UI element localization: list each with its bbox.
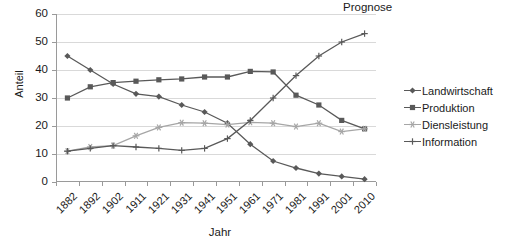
data-point-plus: [110, 142, 116, 148]
data-point-square: [65, 95, 70, 100]
y-tick-label: 10: [18, 147, 48, 159]
x-tick-label: 2010: [347, 190, 377, 220]
x-axis-title: Jahr: [140, 226, 300, 238]
series-information: [64, 30, 368, 154]
data-point-square: [133, 79, 138, 84]
data-point-star: [155, 124, 162, 130]
x-tick-label: 1951: [210, 190, 240, 220]
y-tick-label: 50: [18, 35, 48, 47]
data-point-plus: [409, 138, 415, 144]
x-tick-label: 2001: [324, 190, 354, 220]
series-produktion: [65, 69, 367, 132]
legend-item-label: Landwirtschaft: [422, 85, 493, 97]
legend-item-produktion[interactable]: Produktion: [404, 99, 507, 116]
series-landwirtschaft: [64, 53, 367, 182]
data-point-plus: [156, 145, 162, 151]
data-point-diamond: [179, 102, 185, 108]
x-axis-tick-labels: 1882189219021911192119311941195119611971…: [56, 184, 386, 224]
x-tick-label: 1892: [73, 190, 103, 220]
data-point-diamond: [201, 109, 207, 115]
data-point-plus: [361, 30, 367, 36]
data-point-star: [315, 120, 322, 126]
data-point-square: [156, 77, 161, 82]
data-point-square: [179, 76, 184, 81]
data-point-diamond: [316, 171, 322, 177]
data-point-square: [111, 80, 116, 85]
data-point-plus: [64, 148, 70, 154]
data-point-plus: [201, 145, 207, 151]
data-point-square: [316, 102, 321, 107]
data-point-square: [248, 69, 253, 74]
x-tick-label: 1941: [187, 190, 217, 220]
x-tick-label: 1882: [50, 190, 80, 220]
data-point-plus: [339, 39, 345, 45]
data-point-star: [178, 120, 185, 126]
line-chart: Anteil 0102030405060 1882189219021911192…: [0, 0, 507, 250]
data-point-square: [88, 84, 93, 89]
legend-marker-diamond-icon: [404, 85, 421, 96]
x-tick-label: 1911: [119, 190, 149, 220]
y-tick-label: 30: [18, 91, 48, 103]
x-tick-label: 1971: [256, 190, 286, 220]
data-point-plus: [133, 144, 139, 150]
x-tick-label: 1991: [301, 190, 331, 220]
data-point-square: [202, 74, 207, 79]
legend-marker-square-icon: [404, 102, 421, 113]
prognose-annotation: Prognose: [343, 1, 392, 13]
series-lines: [56, 14, 376, 182]
x-tick-label: 1931: [164, 190, 194, 220]
data-point-diamond: [361, 176, 367, 182]
data-point-square: [339, 118, 344, 123]
data-point-diamond: [133, 91, 139, 97]
data-point-diamond: [339, 173, 345, 179]
data-point-diamond: [87, 67, 93, 73]
y-axis-title: Anteil: [13, 49, 25, 119]
legend-item-information[interactable]: Information: [404, 133, 507, 150]
series-diensleistung: [64, 119, 368, 154]
data-point-plus: [87, 145, 93, 151]
data-point-star: [338, 129, 345, 135]
data-point-star: [270, 120, 277, 126]
y-tick-label: 60: [18, 7, 48, 19]
chart-legend: LandwirtschaftProduktionDiensleistungInf…: [404, 82, 507, 150]
legend-item-landwirtschaft[interactable]: Landwirtschaft: [404, 82, 507, 99]
data-point-square: [225, 74, 230, 79]
legend-item-label: Produktion: [422, 102, 475, 114]
x-tick-label: 1921: [141, 190, 171, 220]
data-point-square: [271, 69, 276, 74]
x-tick-label: 1961: [233, 190, 263, 220]
legend-marker-plus-icon: [404, 136, 421, 147]
data-point-square: [410, 105, 415, 110]
data-point-star: [293, 124, 300, 130]
data-point-diamond: [293, 165, 299, 171]
x-tick-label: 1902: [96, 190, 126, 220]
y-tick-label: 20: [18, 119, 48, 131]
y-tick-label: 0: [18, 175, 48, 187]
plot-area: [56, 14, 376, 182]
data-point-star: [201, 120, 208, 126]
data-point-diamond: [409, 87, 415, 93]
x-tick-label: 1981: [279, 190, 309, 220]
data-point-square: [293, 93, 298, 98]
data-point-star: [133, 133, 140, 139]
legend-item-label: Diensleistung: [422, 119, 488, 131]
legend-item-label: Information: [422, 136, 477, 148]
data-point-diamond: [156, 94, 162, 100]
data-point-diamond: [64, 53, 70, 59]
y-tick-label: 40: [18, 63, 48, 75]
data-point-star: [409, 122, 416, 128]
legend-item-diensleistung[interactable]: Diensleistung: [404, 116, 507, 133]
data-point-plus: [179, 147, 185, 153]
legend-marker-star-icon: [404, 119, 421, 130]
